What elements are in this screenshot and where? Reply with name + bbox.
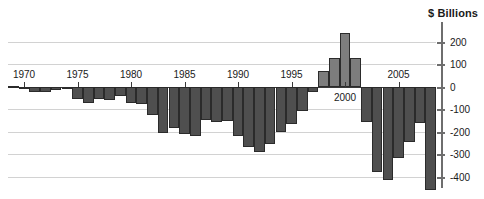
bar bbox=[308, 87, 319, 92]
bar bbox=[158, 87, 169, 134]
y-axis-tick bbox=[437, 87, 445, 89]
x-axis-tick-label: 1990 bbox=[227, 69, 249, 80]
bar bbox=[29, 87, 40, 92]
y-axis-tick-label: -400 bbox=[450, 171, 470, 182]
y-axis-tick bbox=[437, 177, 445, 179]
x-axis-tick-label: 1970 bbox=[13, 69, 35, 80]
bar bbox=[243, 87, 254, 148]
bar bbox=[8, 86, 19, 88]
bar bbox=[136, 87, 147, 105]
y-axis-tick-label: 100 bbox=[450, 59, 467, 70]
y-axis-tick-label: -100 bbox=[450, 104, 470, 115]
bar bbox=[350, 58, 361, 87]
bar bbox=[415, 87, 426, 123]
x-axis-tick bbox=[399, 82, 400, 87]
bar bbox=[201, 87, 212, 121]
x-axis-tick bbox=[238, 82, 239, 87]
x-axis-tick-label: 2005 bbox=[387, 69, 409, 80]
bar bbox=[318, 71, 329, 87]
bar bbox=[147, 87, 158, 116]
bar bbox=[169, 87, 180, 129]
bar bbox=[383, 87, 394, 180]
bar bbox=[104, 87, 115, 100]
y-axis-tick bbox=[437, 132, 445, 134]
x-axis-tick bbox=[345, 82, 346, 87]
x-axis-tick-label: 1975 bbox=[66, 69, 88, 80]
x-axis-tick-label: 1995 bbox=[280, 69, 302, 80]
bar bbox=[40, 87, 51, 92]
axis-title: $ Billions bbox=[428, 7, 478, 19]
x-axis-tick bbox=[131, 82, 132, 87]
bar-series bbox=[8, 28, 436, 188]
bar bbox=[276, 87, 287, 133]
y-axis-tick-label: 0 bbox=[450, 81, 456, 92]
y-axis-tick-label: -300 bbox=[450, 149, 470, 160]
bar bbox=[115, 87, 126, 96]
y-axis-tick bbox=[437, 64, 445, 66]
bar bbox=[404, 87, 415, 143]
plot-area bbox=[8, 28, 436, 188]
x-axis-tick-label: 2000 bbox=[334, 92, 356, 103]
x-axis-tick-label: 1980 bbox=[120, 69, 142, 80]
bar bbox=[233, 87, 244, 137]
bar bbox=[190, 87, 201, 137]
y-axis-line bbox=[441, 22, 443, 188]
bar bbox=[425, 87, 436, 190]
bar bbox=[297, 87, 308, 111]
bar bbox=[179, 87, 190, 135]
bar bbox=[286, 87, 297, 124]
bar bbox=[222, 87, 233, 121]
y-axis-tick-label: -200 bbox=[450, 126, 470, 137]
x-axis-tick-label: 1985 bbox=[173, 69, 195, 80]
bar bbox=[265, 87, 276, 144]
bar bbox=[329, 58, 340, 86]
x-axis-tick bbox=[24, 82, 25, 87]
x-axis-tick bbox=[292, 82, 293, 87]
y-axis-tick bbox=[437, 42, 445, 44]
bar bbox=[126, 87, 137, 104]
chart-figure: $ Billions 2001000-100-200-300-400 19701… bbox=[0, 0, 484, 199]
bar bbox=[393, 87, 404, 159]
x-axis-tick bbox=[185, 82, 186, 87]
bar bbox=[83, 87, 94, 104]
bar bbox=[94, 87, 105, 99]
y-axis-tick bbox=[437, 109, 445, 111]
x-axis-tick bbox=[78, 82, 79, 87]
y-axis-tick-label: 200 bbox=[450, 36, 467, 47]
bar bbox=[62, 87, 73, 89]
bar bbox=[51, 87, 62, 90]
bar bbox=[72, 87, 83, 99]
bar bbox=[211, 87, 222, 122]
y-axis-tick bbox=[437, 154, 445, 156]
bar bbox=[19, 87, 30, 89]
bar bbox=[254, 87, 265, 152]
bar bbox=[340, 33, 351, 86]
bar bbox=[361, 87, 372, 123]
bar bbox=[372, 87, 383, 172]
